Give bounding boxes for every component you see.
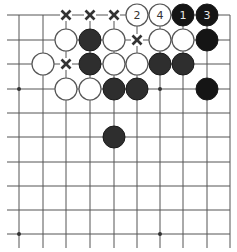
white-stone: 2 bbox=[126, 4, 148, 26]
star-point-icon bbox=[17, 232, 21, 236]
black-stone: 3 bbox=[196, 4, 218, 26]
black-stone: 1 bbox=[172, 4, 194, 26]
white-stone bbox=[149, 29, 171, 51]
star-point-icon bbox=[158, 87, 162, 91]
white-stone bbox=[55, 78, 77, 100]
x-mark-icon bbox=[60, 9, 72, 21]
move-number-label: 1 bbox=[180, 9, 187, 22]
black-stone bbox=[172, 53, 194, 75]
move-number-label: 4 bbox=[157, 9, 164, 22]
move-number-label: 2 bbox=[134, 9, 141, 22]
black-stone bbox=[103, 126, 125, 148]
black-stone bbox=[149, 53, 171, 75]
black-stone bbox=[126, 78, 148, 100]
x-mark-icon bbox=[131, 34, 143, 46]
white-stone bbox=[55, 29, 77, 51]
white-stone bbox=[103, 53, 125, 75]
white-stone bbox=[126, 53, 148, 75]
black-stone bbox=[196, 78, 218, 100]
x-mark-icon bbox=[60, 58, 72, 70]
white-stone bbox=[172, 29, 194, 51]
x-mark-icon bbox=[108, 9, 120, 21]
white-stone: 4 bbox=[149, 4, 171, 26]
white-stone bbox=[79, 78, 101, 100]
black-stone bbox=[196, 29, 218, 51]
star-point-icon bbox=[158, 232, 162, 236]
x-mark-icon bbox=[84, 9, 96, 21]
black-stone bbox=[79, 29, 101, 51]
move-number-label: 3 bbox=[204, 9, 211, 22]
stones: 2413 bbox=[32, 4, 218, 148]
white-stone bbox=[32, 53, 54, 75]
go-board-diagram: 2413 bbox=[0, 0, 237, 252]
black-stone bbox=[79, 53, 101, 75]
star-point-icon bbox=[17, 87, 21, 91]
black-stone bbox=[103, 78, 125, 100]
white-stone bbox=[103, 29, 125, 51]
